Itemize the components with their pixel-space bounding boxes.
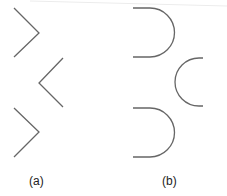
panel-b-label: (b): [162, 174, 177, 188]
u-shape-open-right-2: [175, 58, 203, 106]
u-shape-open-left-1: [133, 8, 174, 57]
figure-canvas: [0, 0, 227, 196]
scan-edge-line: [30, 1, 227, 6]
panel-a-label: (a): [29, 174, 44, 188]
panel-b: [133, 8, 203, 157]
chevron-right-3: [14, 108, 39, 157]
panel-a: [14, 8, 63, 157]
chevron-right-1: [14, 8, 39, 57]
u-shape-open-left-3: [133, 108, 175, 157]
chevron-left-2: [39, 58, 63, 107]
